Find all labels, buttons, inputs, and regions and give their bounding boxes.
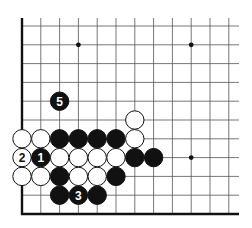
white-stone-icon	[13, 130, 31, 148]
white-stone	[13, 130, 31, 148]
black-stone	[107, 130, 125, 148]
white-stone-icon	[50, 148, 68, 166]
white-stone	[32, 130, 50, 148]
black-stone	[144, 148, 162, 166]
star-point	[76, 42, 81, 47]
black-stone-icon	[144, 148, 162, 166]
black-stone-icon	[69, 130, 87, 148]
black-stone-icon	[126, 148, 144, 166]
move-number: 1	[37, 151, 44, 165]
white-stone-icon	[32, 167, 50, 185]
black-stone	[50, 130, 68, 148]
black-stone	[107, 167, 125, 185]
black-stone-icon	[88, 186, 106, 204]
white-stone	[88, 167, 106, 185]
move-number: 5	[56, 95, 63, 109]
move-number: 3	[75, 189, 82, 203]
black-stone	[50, 167, 68, 185]
white-stone	[126, 111, 144, 129]
white-stone-move-2: 2	[13, 148, 31, 166]
white-stone	[69, 148, 87, 166]
white-stone	[126, 130, 144, 148]
white-stone	[13, 167, 31, 185]
black-stone-icon	[50, 167, 68, 185]
black-stone-move-1: 1	[32, 148, 50, 166]
black-stone	[69, 130, 87, 148]
white-stone-icon	[107, 148, 125, 166]
black-stone	[50, 186, 68, 204]
move-number: 2	[19, 151, 26, 165]
black-stone-icon	[107, 130, 125, 148]
white-stone	[32, 167, 50, 185]
white-stone-icon	[69, 148, 87, 166]
black-stone	[88, 186, 106, 204]
black-stone	[126, 148, 144, 166]
black-stone-move-5: 5	[50, 92, 68, 110]
black-stone-move-3: 3	[69, 186, 87, 204]
white-stone-icon	[126, 130, 144, 148]
white-stone-icon	[69, 167, 87, 185]
black-stone-icon	[88, 130, 106, 148]
white-stone-icon	[32, 130, 50, 148]
black-stone-icon	[107, 167, 125, 185]
star-point	[189, 155, 194, 160]
white-stone	[88, 148, 106, 166]
white-stone-icon	[88, 148, 106, 166]
star-point	[189, 42, 194, 47]
white-stone-icon	[13, 167, 31, 185]
white-stone	[107, 148, 125, 166]
white-stone	[69, 167, 87, 185]
white-stone	[50, 148, 68, 166]
black-stone	[88, 130, 106, 148]
white-stone-icon	[88, 167, 106, 185]
white-stone-icon	[126, 111, 144, 129]
go-board-diagram: 3215	[0, 0, 252, 228]
stones-layer: 3215	[13, 92, 163, 204]
black-stone-icon	[50, 186, 68, 204]
black-stone-icon	[50, 130, 68, 148]
